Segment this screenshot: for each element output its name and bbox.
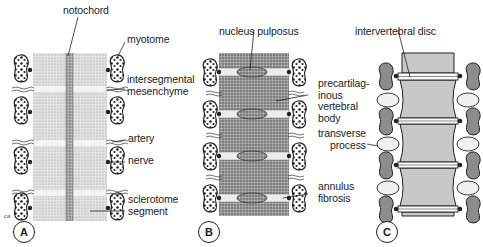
panel-c-drawing [367,30,480,223]
panel-label-c: C [376,221,398,243]
label-transverse-process: transverse process [318,128,366,151]
panel-a-drawing [12,17,128,221]
label-notochord: notochord [63,5,109,17]
panel-b-drawing [203,30,308,216]
label-artery: artery [128,133,154,145]
label-annulus-fibrosis: annulus fibrosis [318,181,354,204]
label-sclerotome-segment: sclerotome segment [128,194,178,217]
label-precartilaginous-vertebral-body: precartilag- inous vertebral body [318,78,369,124]
panel-label-a: A [13,221,35,243]
label-intersegmental-mesenchyme: intersegmental mesenchyme [127,74,194,97]
label-myotome: myotome [127,34,169,46]
label-nucleus-pulposus: nucleus pulposus [219,26,299,38]
panel-label-b: B [198,221,220,243]
label-nerve: nerve [128,155,154,167]
label-intervertebral-disc: intervertebral disc [355,26,436,38]
credit-initials: ca [4,213,10,219]
